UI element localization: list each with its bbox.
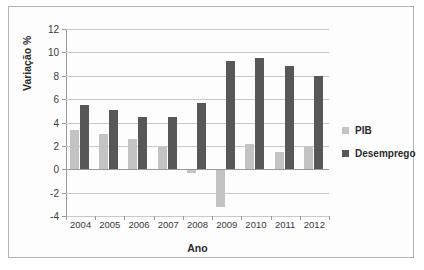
bar-desemprego-2005[interactable] [109, 110, 118, 170]
gridline--4 [66, 216, 329, 217]
x-axis-tick-label-2010: 2010 [241, 219, 270, 230]
legend-label: Desemprego [355, 148, 416, 159]
x-axis-tick-label-2012: 2012 [300, 219, 329, 230]
bar-group [212, 29, 241, 216]
x-axis-tick-label-2007: 2007 [154, 219, 183, 230]
x-axis-tick [329, 216, 330, 220]
bar-desemprego-2004[interactable] [80, 105, 89, 169]
bar-pib-2009[interactable] [216, 169, 225, 206]
bar-desemprego-2012[interactable] [314, 76, 323, 170]
bar-group [66, 29, 95, 216]
bar-desemprego-2008[interactable] [197, 103, 206, 170]
y-axis-tick-label: -4 [50, 211, 59, 222]
bar-group [300, 29, 329, 216]
bar-pib-2004[interactable] [70, 130, 79, 170]
bar-pib-2006[interactable] [128, 139, 137, 169]
x-axis-title: Ano [66, 242, 329, 254]
x-axis-tick-label-2005: 2005 [95, 219, 124, 230]
y-axis-tick-label: 12 [48, 24, 59, 35]
y-axis-tick-label: 8 [53, 70, 59, 81]
y-axis-tick-label: 10 [48, 47, 59, 58]
y-axis-tick-label: -2 [50, 187, 59, 198]
bar-group [183, 29, 212, 216]
bar-group [95, 29, 124, 216]
bar-pib-2010[interactable] [245, 144, 254, 170]
bar-pib-2011[interactable] [275, 152, 284, 170]
chart-legend: PIBDesemprego [342, 125, 416, 171]
bar-pib-2012[interactable] [304, 146, 313, 169]
x-axis-tick-label-2006: 2006 [125, 219, 154, 230]
chart-frame: Variação % Ano 121086420-2-4 20042005200… [8, 6, 414, 258]
x-axis-tick-label-2008: 2008 [183, 219, 212, 230]
bar-group [271, 29, 300, 216]
y-axis-tick-label: 6 [53, 94, 59, 105]
y-axis-title: Variação % [21, 36, 33, 91]
bar-pib-2005[interactable] [99, 134, 108, 169]
bar-desemprego-2009[interactable] [226, 61, 235, 170]
bar-group [241, 29, 270, 216]
bar-series-group [66, 29, 329, 216]
legend-item-desemprego[interactable]: Desemprego [342, 148, 416, 159]
zero-baseline [66, 169, 329, 170]
y-axis-tick-label: 2 [53, 140, 59, 151]
x-axis-tick-label-2009: 2009 [212, 219, 241, 230]
legend-label: PIB [355, 125, 372, 136]
y-axis-tick-label: 0 [53, 164, 59, 175]
bar-desemprego-2011[interactable] [285, 66, 294, 169]
y-axis-tick-label: 4 [53, 117, 59, 128]
legend-item-pib[interactable]: PIB [342, 125, 416, 136]
bar-desemprego-2006[interactable] [138, 117, 147, 170]
bar-group [124, 29, 153, 216]
bar-pib-2007[interactable] [158, 147, 167, 169]
plot-area: 121086420-2-4 20042005200620072008200920… [66, 29, 329, 216]
legend-swatch-icon [342, 150, 349, 157]
x-axis-tick-label-2011: 2011 [271, 219, 300, 230]
bar-desemprego-2010[interactable] [255, 58, 264, 169]
x-axis-tick-label-2004: 2004 [66, 219, 95, 230]
bar-group [154, 29, 183, 216]
bar-desemprego-2007[interactable] [168, 117, 177, 170]
legend-swatch-icon [342, 127, 349, 134]
